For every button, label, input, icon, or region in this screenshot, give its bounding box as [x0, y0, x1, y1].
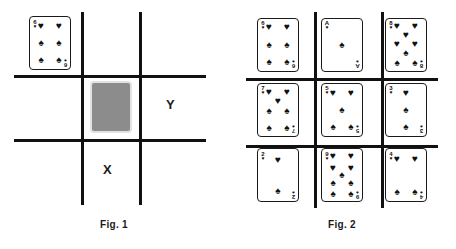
- card-corner-index-bottom-right: 6♠: [62, 58, 69, 68]
- grid-cell-7: 2♥♥♠2♠: [246, 143, 310, 208]
- spade-pip-icon: ♠: [284, 40, 289, 50]
- grid-cell-6: 3♥♥♠♠3♠: [374, 77, 438, 142]
- heart-pip-icon: ♥: [284, 22, 290, 32]
- playing-card: 3♥♥♠♠3♠: [385, 83, 427, 137]
- figure-2-caption: Fig. 2: [228, 219, 456, 230]
- heart-pip-icon: ♥: [56, 21, 62, 31]
- spade-pip-icon: ♠: [394, 58, 399, 68]
- figure-2-grid: 6♥♥♥♠♠♠♠6♠A♥♠A♠8♥♥♥♥♥♥♠♠♠8♠7♥♥♥♥♠♠♠♠7♠5♥…: [246, 12, 438, 208]
- spade-pip-icon: ♠: [330, 122, 335, 132]
- playing-card: A♥♠A♠: [321, 18, 363, 72]
- spade-pip-icon: ♠: [266, 123, 271, 133]
- figure-pair: Y X 6♥♥♥♠♠♠♠6♠ Fig. 1 6♥♥♥♠♠♠♠6♠A♥♠A♠8♥♥…: [0, 0, 456, 249]
- heart-pip-icon: ♥: [330, 88, 336, 98]
- card-pip-area: ♥♠: [264, 152, 292, 198]
- card-pip-area: ♥♥♥♠♠♠♠: [264, 87, 292, 133]
- spade-pip-icon: ♠: [38, 55, 43, 65]
- heart-pip-icon: ♥: [275, 155, 281, 165]
- heart-pip-icon: ♥: [394, 21, 400, 31]
- grid-vertical-line-1: [81, 12, 84, 205]
- heart-pip-icon: ♥: [394, 154, 400, 164]
- spade-suit-icon: ♠: [290, 124, 297, 129]
- heart-pip-icon: ♥: [348, 151, 354, 161]
- figure-1-caption: Fig. 1: [0, 219, 228, 230]
- heart-pip-icon: ♥: [275, 96, 281, 106]
- figure-1: Y X 6♥♥♥♠♠♠♠6♠ Fig. 1: [0, 0, 228, 249]
- heart-pip-icon: ♥: [348, 163, 354, 173]
- card-pip-area: ♥♥♥♥♠♠♠♠♠: [328, 152, 356, 198]
- heart-pip-icon: ♥: [266, 87, 272, 97]
- card-pip-area: ♥♥♠♠: [392, 152, 420, 198]
- face-down-card: [90, 81, 132, 133]
- spade-pip-icon: ♠: [330, 178, 335, 188]
- spade-pip-icon: ♠: [348, 178, 353, 188]
- heart-pip-icon: ♥: [412, 21, 418, 31]
- spade-pip-icon: ♠: [266, 106, 271, 116]
- heart-pip-icon: ♥: [266, 22, 272, 32]
- spade-suit-icon: ♠: [62, 58, 69, 63]
- card-corner-index-bottom-right: 7♠: [290, 124, 297, 134]
- cell-label-x: X: [103, 162, 112, 177]
- heart-pip-icon: ♥: [284, 87, 290, 97]
- grid-cell-9: 4♥♥♥♠♠4♠: [374, 143, 438, 208]
- card-pip-area: ♥♥♠♠♠♠: [36, 20, 64, 66]
- heart-pip-icon: ♥: [394, 39, 400, 49]
- heart-pip-icon: ♥: [412, 154, 418, 164]
- grid-cell-8: 9♥♥♥♥♥♠♠♠♠♠9♠: [310, 143, 374, 208]
- spade-suit-icon: ♠: [418, 124, 425, 129]
- spade-pip-icon: ♠: [403, 48, 408, 58]
- spade-pip-icon: ♠: [266, 40, 271, 50]
- playing-card: 6♥♥♥♠♠♠♠6♠: [257, 18, 299, 72]
- spade-pip-icon: ♠: [403, 105, 408, 115]
- card-pip-area: ♥♥♥♥♥♠♠♠: [392, 22, 420, 68]
- card-corner-index-bottom-right: 8♠: [418, 59, 425, 69]
- spade-pip-icon: ♠: [38, 38, 43, 48]
- spade-pip-icon: ♠: [394, 187, 399, 197]
- spade-suit-icon: ♠: [354, 190, 361, 195]
- spade-pip-icon: ♠: [412, 187, 417, 197]
- figure-1-loose-card: 6♥♥♥♠♠♠♠6♠: [29, 16, 71, 70]
- spade-pip-icon: ♠: [284, 106, 289, 116]
- grid-cell-1: 6♥♥♥♠♠♠♠6♠: [246, 12, 310, 77]
- playing-card: 6♥♥♥♠♠♠♠6♠: [29, 16, 71, 70]
- grid-cell-3: 8♥♥♥♥♥♥♠♠♠8♠: [374, 12, 438, 77]
- card-corner-index-bottom-right: 5♠: [354, 124, 361, 134]
- card-corner-index-bottom-right: 2♠: [290, 190, 297, 200]
- heart-pip-icon: ♥: [330, 151, 336, 161]
- grid-cell-5: 5♥♥♥♠♠♠5♠: [310, 77, 374, 142]
- spade-pip-icon: ♠: [339, 40, 344, 50]
- spade-pip-icon: ♠: [56, 55, 61, 65]
- grid-cell-2: A♥♠A♠: [310, 12, 374, 77]
- card-corner-index-bottom-right: 4♠: [418, 190, 425, 200]
- card-corner-index-bottom-right: 9♠: [354, 190, 361, 200]
- spade-suit-icon: ♠: [290, 190, 297, 195]
- playing-card: 8♥♥♥♥♥♥♠♠♠8♠: [385, 18, 427, 72]
- spade-pip-icon: ♠: [284, 57, 289, 67]
- card-pip-area: ♥♠♠: [392, 87, 420, 133]
- playing-card: 9♥♥♥♥♥♠♠♠♠♠9♠: [321, 148, 363, 202]
- cell-label-y: Y: [166, 97, 175, 112]
- playing-card: 4♥♥♥♠♠4♠: [385, 148, 427, 202]
- heart-pip-icon: ♥: [348, 88, 354, 98]
- heart-pip-icon: ♥: [403, 88, 409, 98]
- spade-pip-icon: ♠: [266, 57, 271, 67]
- grid-vertical-line-2: [139, 12, 142, 205]
- playing-card: 7♥♥♥♥♠♠♠♠7♠: [257, 83, 299, 137]
- figure-2: 6♥♥♥♠♠♠♠6♠A♥♠A♠8♥♥♥♥♥♥♠♠♠8♠7♥♥♥♥♠♠♠♠7♠5♥…: [228, 0, 456, 249]
- playing-card: 5♥♥♥♠♠♠5♠: [321, 83, 363, 137]
- spade-suit-icon: ♠: [418, 59, 425, 64]
- card-pip-area: ♥♥♠♠♠♠: [264, 22, 292, 68]
- card-pip-area: ♥♥♠♠♠: [328, 87, 356, 133]
- spade-pip-icon: ♠: [403, 122, 408, 132]
- spade-pip-icon: ♠: [284, 123, 289, 133]
- card-corner-index-bottom-right: A♠: [354, 59, 361, 69]
- spade-pip-icon: ♠: [339, 170, 344, 180]
- card-pip-area: ♠: [328, 22, 356, 68]
- figure-2-card-slots: 6♥♥♥♠♠♠♠6♠A♥♠A♠8♥♥♥♥♥♥♠♠♠8♠7♥♥♥♥♠♠♠♠7♠5♥…: [246, 12, 438, 208]
- grid-horizontal-line-1: [14, 75, 206, 78]
- spade-pip-icon: ♠: [348, 122, 353, 132]
- spade-pip-icon: ♠: [339, 105, 344, 115]
- spade-suit-icon: ♠: [354, 124, 361, 129]
- heart-pip-icon: ♥: [403, 30, 409, 40]
- grid-horizontal-line-2: [14, 139, 206, 142]
